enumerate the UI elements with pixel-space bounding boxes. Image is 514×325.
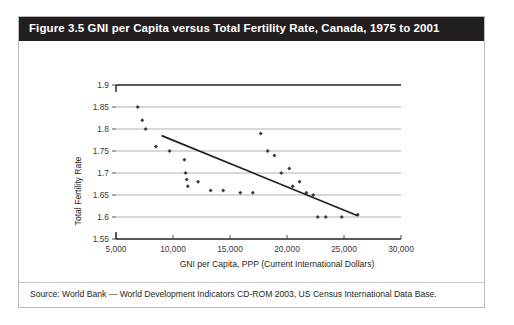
y-axis-tick-label: 1.7 <box>97 168 109 178</box>
data-point-marker <box>287 167 291 171</box>
y-axis-tick-label: 1.75 <box>93 146 110 156</box>
data-point-marker <box>196 180 200 184</box>
x-axis-title: GNI per Capita, PPP (Current Internation… <box>180 259 375 269</box>
x-axis-tick-label: 20,000 <box>274 244 300 254</box>
x-axis-tick-label: 15,000 <box>217 244 243 254</box>
data-point-marker <box>221 189 225 193</box>
y-axis-tick-label: 1.55 <box>93 234 110 244</box>
data-point-marker <box>185 178 189 182</box>
x-axis-tick-label: 25,000 <box>331 244 357 254</box>
trendline <box>162 136 358 216</box>
data-point-marker <box>324 215 328 219</box>
data-point-marker <box>340 215 344 219</box>
data-point-marker <box>154 145 158 149</box>
data-point-marker <box>251 191 255 195</box>
data-point-marker <box>209 189 213 193</box>
data-point-marker <box>272 153 276 157</box>
y-axis-tick-labels: 1.551.61.651.71.751.81.851.9 <box>93 80 110 244</box>
data-point-marker <box>238 191 242 195</box>
data-point-marker <box>136 105 140 109</box>
figure-container: Figure 3.5 GNI per Capita versus Total F… <box>18 16 485 308</box>
x-axis-tick-label: 10,000 <box>160 244 186 254</box>
data-point-marker <box>316 215 320 219</box>
data-point-marker <box>259 131 263 135</box>
chart-plot-region: 1.551.61.651.71.751.81.851.9 5,00010,000… <box>19 41 484 286</box>
data-point-marker <box>279 171 283 175</box>
x-axis-tick-label: 30,000 <box>388 244 414 254</box>
data-point-marker <box>186 184 190 188</box>
data-point-marker <box>298 180 302 184</box>
figure-title-bar: Figure 3.5 GNI per Capita versus Total F… <box>19 17 484 41</box>
data-point-marker <box>144 127 148 131</box>
data-point-marker <box>168 149 172 153</box>
x-axis-tick-labels: 5,00010,00015,00020,00025,00030,000 <box>106 244 415 254</box>
x-axis-tick-label: 5,000 <box>106 244 127 254</box>
data-point-marker <box>266 149 270 153</box>
footer-divider <box>19 282 484 283</box>
data-point-marker <box>182 158 186 162</box>
y-axis-tick-label: 1.85 <box>93 102 110 112</box>
scatter-chart: 1.551.61.651.71.751.81.851.9 5,00010,000… <box>19 41 486 286</box>
data-point-marker <box>140 118 144 122</box>
y-axis-tick-label: 1.8 <box>97 124 109 134</box>
data-point-marker <box>184 171 188 175</box>
data-point-marker <box>291 184 295 188</box>
y-axis-tick-label: 1.6 <box>97 212 109 222</box>
y-axis-tick-label: 1.9 <box>97 80 109 90</box>
figure-title: Figure 3.5 GNI per Capita versus Total F… <box>29 22 440 34</box>
source-note: Source: World Bank — World Development I… <box>30 289 437 299</box>
trendline-segment <box>162 136 358 216</box>
y-axis-tick-label: 1.65 <box>93 190 110 200</box>
y-axis-title: Total Fertility Rate <box>73 156 83 225</box>
